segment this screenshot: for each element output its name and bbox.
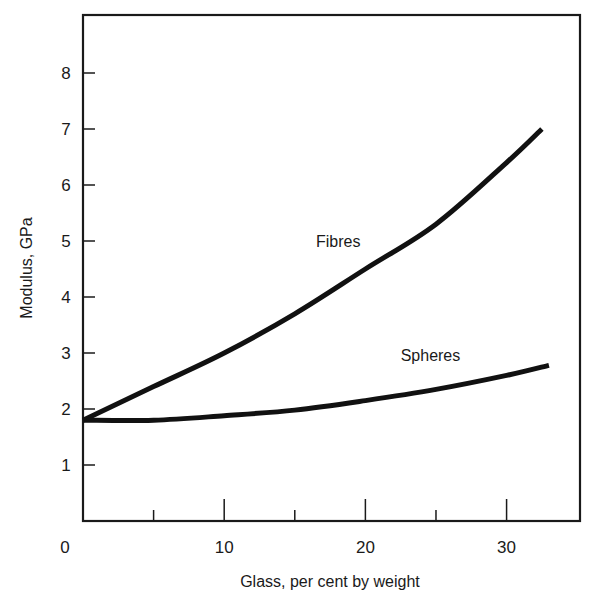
y-tick-label: 5 <box>61 232 70 251</box>
x-tick-label: 20 <box>356 538 375 557</box>
label-spheres: Spheres <box>401 347 461 364</box>
origin-label: 0 <box>60 538 69 557</box>
y-axis-title: Modulus, GPa <box>18 217 35 318</box>
y-tick-label: 7 <box>61 120 70 139</box>
series-lines <box>83 129 549 421</box>
y-tick-label: 2 <box>61 400 70 419</box>
y-axis-ticks: 123456780 <box>60 64 95 557</box>
x-tick-label: 30 <box>497 538 516 557</box>
curve-fibres <box>83 129 542 420</box>
y-tick-label: 3 <box>61 344 70 363</box>
y-tick-label: 6 <box>61 176 70 195</box>
curve-spheres <box>83 365 549 420</box>
y-tick-label: 1 <box>61 456 70 475</box>
x-tick-label: 10 <box>215 538 234 557</box>
x-axis-ticks: 102030 <box>154 499 516 557</box>
x-axis-title: Glass, per cent by weight <box>240 573 420 590</box>
label-fibres: Fibres <box>316 233 360 250</box>
plot-border <box>83 15 580 521</box>
y-tick-label: 4 <box>61 288 70 307</box>
modulus-vs-glass-chart: 123456780 102030 FibresSpheres Glass, pe… <box>0 0 598 606</box>
y-tick-label: 8 <box>61 64 70 83</box>
plot-frame <box>83 15 580 521</box>
